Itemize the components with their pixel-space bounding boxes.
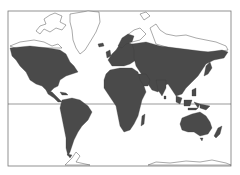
south-america [60, 98, 92, 156]
north-america [10, 46, 78, 92]
landmasses [10, 34, 228, 158]
world-map [0, 0, 240, 175]
central-america [46, 90, 62, 102]
australia [180, 112, 212, 136]
world-map-svg [0, 0, 240, 175]
